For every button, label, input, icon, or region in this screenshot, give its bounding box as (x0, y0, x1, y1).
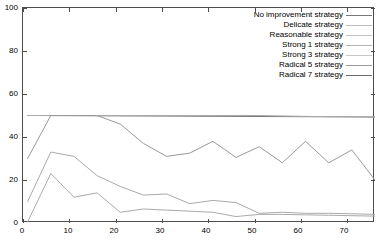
legend-swatch-0 (346, 15, 372, 16)
legend-label-4: Strong 3 strategy (282, 50, 343, 60)
y-tick-label-20: 20 (0, 175, 18, 184)
legend-label-2: Reasonable strategy (270, 30, 343, 40)
x-tick-label-30: 30 (148, 226, 172, 235)
legend-swatch-5 (346, 65, 372, 66)
x-tick-label-40: 40 (194, 226, 218, 235)
legend-swatch-4 (346, 55, 372, 56)
series-lines (28, 116, 375, 222)
legend-swatch-1 (346, 25, 372, 26)
series-line-4 (28, 174, 375, 222)
series-line-2 (28, 116, 375, 181)
y-tick-label-80: 80 (0, 46, 18, 55)
legend-label-5: Radical 5 strategy (279, 60, 343, 70)
legend-label-3: Strong 1 strategy (282, 40, 343, 50)
legend-swatch-2 (346, 35, 372, 36)
legend-item-3[interactable]: Strong 1 strategy (282, 40, 372, 50)
legend-item-5[interactable]: Radical 5 strategy (279, 60, 372, 70)
x-tick-label-10: 10 (56, 226, 80, 235)
legend-swatch-3 (346, 45, 372, 46)
legend-item-1[interactable]: Delicate strategy (283, 20, 372, 30)
y-tick-label-60: 60 (0, 89, 18, 98)
line-chart: 100 80 60 40 20 0 0 10 20 30 40 50 60 70… (0, 0, 384, 249)
y-tick-label-100: 100 (0, 3, 18, 12)
legend-item-0[interactable]: No improvement strategy (254, 10, 372, 20)
legend-label-0: No improvement strategy (254, 10, 343, 20)
x-tick-label-20: 20 (102, 226, 126, 235)
x-tick-label-60: 60 (286, 226, 310, 235)
legend: No improvement strategy Delicate strateg… (244, 10, 372, 80)
x-tick-label-50: 50 (240, 226, 264, 235)
legend-item-2[interactable]: Reasonable strategy (270, 30, 372, 40)
legend-swatch-6 (346, 75, 372, 76)
legend-item-6[interactable]: Radical 7 strategy (279, 70, 372, 80)
legend-label-6: Radical 7 strategy (279, 70, 343, 80)
y-tick-label-40: 40 (0, 132, 18, 141)
x-tick-label-0: 0 (10, 226, 34, 235)
x-tick-label-70: 70 (332, 226, 356, 235)
legend-label-1: Delicate strategy (283, 20, 343, 30)
series-line-3 (28, 152, 375, 214)
legend-item-4[interactable]: Strong 3 strategy (282, 50, 372, 60)
